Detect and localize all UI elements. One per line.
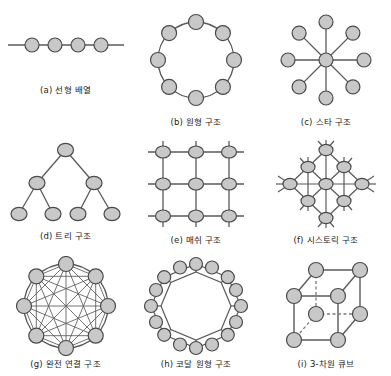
linear-array-diagram [6, 30, 126, 60]
star-diagram [274, 8, 378, 112]
chordal-ring-diagram [143, 256, 249, 356]
panel-star: (c) 스타 구조 [261, 0, 391, 130]
panel-mesh: (e) 매쉬 구조 [131, 130, 261, 252]
panel-linear-array: (a) 선형 배열 [0, 0, 131, 130]
ring-diagram [144, 8, 248, 112]
panel-caption-e: (e) 매쉬 구조 [170, 236, 221, 245]
panel-tree: (d) 트리 구조 [0, 130, 131, 252]
panel-chordal-ring: (h) 코달 원형 구조 [131, 252, 261, 376]
panel-caption-h: (h) 코달 원형 구조 [161, 360, 232, 369]
panel-fully-connected: (g) 완전 연결 구조 [0, 252, 131, 376]
hypercube-diagram [276, 258, 376, 354]
panel-hypercube: (i) 3-차원 큐브 [261, 252, 391, 376]
panel-caption-d: (d) 트리 구조 [40, 232, 91, 241]
panel-caption-f: (f) 시스토릭 구조 [293, 236, 358, 245]
systolic-diagram [270, 138, 382, 230]
panel-caption-g: (g) 완전 연결 구조 [30, 360, 101, 369]
panel-caption-a: (a) 선형 배열 [40, 86, 91, 95]
panel-caption-i: (i) 3-차원 큐브 [297, 360, 354, 369]
mesh-diagram [144, 138, 248, 230]
panel-systolic: (f) 시스토릭 구조 [261, 130, 391, 252]
panel-caption-b: (b) 원형 구조 [170, 118, 221, 127]
tree-diagram [8, 138, 123, 226]
panel-ring: (b) 원형 구조 [131, 0, 261, 130]
panel-caption-c: (c) 스타 구조 [301, 118, 352, 127]
topology-figure-grid: (a) 선형 배열 (b) 원형 구조 [0, 0, 391, 376]
fully-connected-diagram [13, 256, 119, 356]
